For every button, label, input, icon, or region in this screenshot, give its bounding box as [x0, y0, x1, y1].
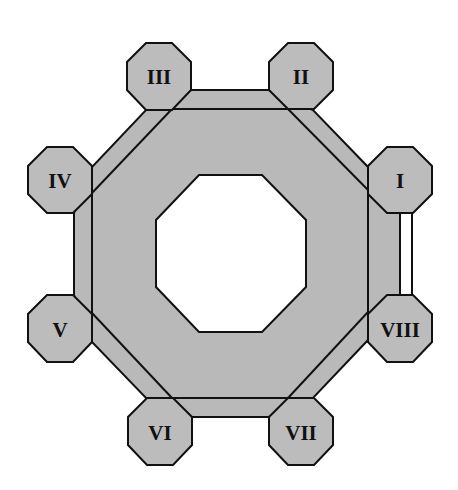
node-VIII[interactable]: VIII: [368, 295, 432, 362]
node-label: IV: [48, 169, 71, 193]
node-label: V: [52, 318, 67, 342]
center-hole: [156, 175, 306, 332]
node-III[interactable]: III: [127, 43, 191, 110]
node-IV[interactable]: IV: [28, 147, 92, 213]
node-label: III: [147, 65, 172, 89]
node-II[interactable]: II: [269, 43, 333, 109]
node-label: VIII: [380, 318, 420, 342]
node-VI[interactable]: VI: [128, 398, 192, 465]
node-I[interactable]: I: [368, 147, 432, 213]
node-V[interactable]: V: [28, 295, 92, 362]
node-VII[interactable]: VII: [269, 398, 333, 465]
node-label: VI: [148, 421, 171, 445]
connector-I-VIII: [400, 212, 412, 296]
node-label: II: [293, 65, 309, 89]
node-label: VII: [285, 421, 317, 445]
octagon-ring-diagram: III II IV I V VIII VI VII: [0, 0, 458, 490]
node-label: I: [396, 169, 404, 193]
